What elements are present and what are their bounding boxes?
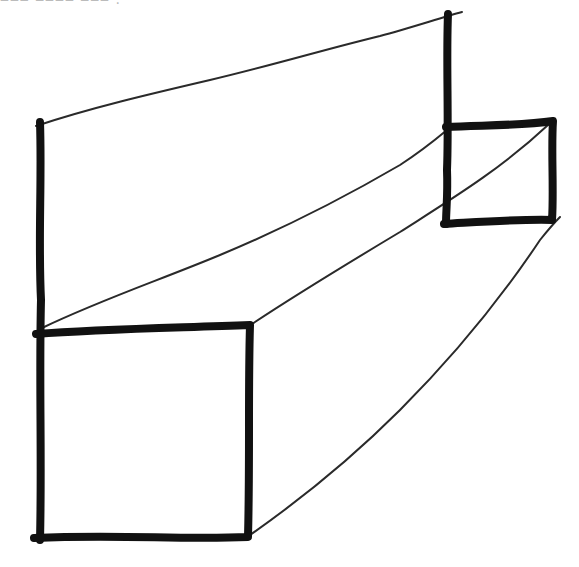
lower-diagonal <box>250 217 560 535</box>
front-square-outline <box>34 325 250 538</box>
back-wall <box>40 14 448 540</box>
top-wall-edge <box>36 12 462 126</box>
upper-diagonal <box>42 130 447 328</box>
perspective-sketch <box>0 0 579 567</box>
back-vertical-edge <box>446 14 448 224</box>
perspective-lines <box>36 12 560 535</box>
front-square <box>34 325 250 538</box>
